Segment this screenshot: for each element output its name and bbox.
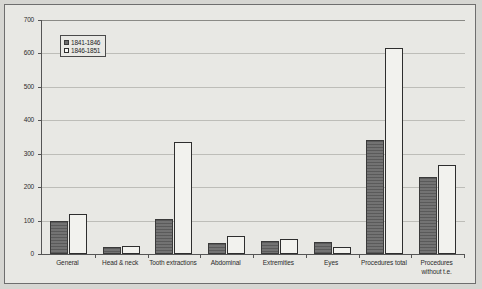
legend-swatch-icon [64, 40, 69, 45]
legend-item-label: 1846-1851 [71, 47, 100, 54]
chart-frame: 0100200300400500600700 GeneralHead & nec… [4, 4, 476, 284]
bar-series-1 [261, 241, 279, 254]
y-axis-tick-label: 600 [8, 49, 34, 56]
bar-series-1 [366, 140, 384, 254]
bar-group [411, 20, 464, 254]
bar-series-1 [314, 242, 332, 254]
bar-series-1 [103, 247, 121, 254]
legend-item-label: 1841-1846 [71, 39, 100, 46]
bar-series-1 [208, 243, 226, 254]
y-axis-tick-label: 0 [8, 250, 34, 257]
y-axis-tick-label: 200 [8, 183, 34, 190]
x-axis-category-label: General [41, 258, 94, 267]
x-axis-category-labels: GeneralHead & neckTooth extractionsAbdom… [41, 258, 464, 284]
y-axis-tick-label: 500 [8, 83, 34, 90]
bar-series-1 [419, 177, 437, 254]
y-axis-tick-label: 400 [8, 116, 34, 123]
bar-series-1 [50, 221, 68, 254]
bar-group [306, 20, 359, 254]
x-axis-category-label: Eyes [305, 258, 358, 267]
x-axis-category-label: Procedures without t.e. [410, 258, 463, 276]
legend-item-series-1: 1841-1846 [64, 38, 100, 46]
bar-series-2 [385, 48, 403, 254]
bar-series-1 [155, 219, 173, 254]
chart-legend: 1841-1846 1846-1851 [60, 35, 106, 57]
bar-series-2 [438, 165, 456, 254]
bar-series-2 [69, 214, 87, 254]
bar-group [200, 20, 253, 254]
y-axis-tick-label: 100 [8, 217, 34, 224]
bar-group [253, 20, 306, 254]
bar-series-2 [122, 246, 140, 254]
y-axis-tick-label: 700 [8, 16, 34, 23]
legend-swatch-icon [64, 48, 69, 53]
bar-series-2 [174, 142, 192, 254]
x-axis-category-label: Procedures total [358, 258, 411, 267]
bar-series-2 [227, 236, 245, 254]
y-axis-tick-label: 300 [8, 150, 34, 157]
x-axis-category-label: Extremities [252, 258, 305, 267]
x-axis-category-label: Head & neck [94, 258, 147, 267]
x-axis-tick-mark [464, 254, 465, 258]
y-axis-tick-mark [38, 254, 42, 255]
bar-series-2 [333, 247, 351, 254]
bar-series-2 [280, 239, 298, 254]
x-axis-category-label: Tooth extractions [147, 258, 200, 267]
bar-group [148, 20, 201, 254]
x-axis-category-label: Abdominal [199, 258, 252, 267]
legend-item-series-2: 1846-1851 [64, 46, 100, 54]
bar-group [359, 20, 412, 254]
